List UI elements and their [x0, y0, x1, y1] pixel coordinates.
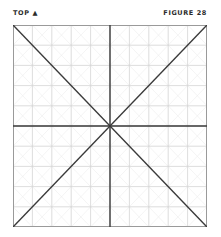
diagram-grid	[13, 25, 207, 227]
top-orientation-label: TOP ▲	[13, 9, 38, 17]
grid-diagram	[13, 25, 207, 227]
figure-number-label: FIGURE 28	[163, 9, 207, 17]
